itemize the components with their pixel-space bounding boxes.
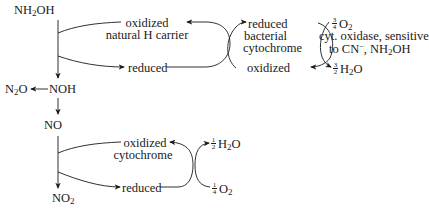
n2o-label: N2O <box>5 83 28 95</box>
sensitivity-label: to CN−, NH2OH <box>329 43 411 55</box>
no-label: NO <box>44 119 62 131</box>
fraction-one-quarter: 14 <box>212 182 217 195</box>
noh-label: NOH <box>49 83 76 95</box>
o2-lower-label: 14O2 <box>212 182 233 195</box>
h2o-upper-label: 32H2O <box>333 62 363 75</box>
lower-cytochrome-label: cytochrome <box>112 149 174 161</box>
cytochrome-label: cytochrome <box>243 42 302 54</box>
h2o-lower-label: 12H2O <box>211 137 241 150</box>
natural-h-carrier-label: natural H carrier <box>104 29 190 41</box>
cyt-oxidized-label: oxidized <box>247 62 290 74</box>
fraction-one-half: 12 <box>211 137 216 150</box>
no2-label: NO2 <box>52 192 75 204</box>
nh2oh-label: NH2OH <box>14 4 55 16</box>
fraction-three-halves: 32 <box>333 62 338 75</box>
lower-cyt-reduced-label: reduced <box>122 182 162 194</box>
carrier-reduced-label: reduced <box>128 62 168 74</box>
cyt-oxidase-label: cyt. oxidase, sensitive <box>319 30 429 42</box>
